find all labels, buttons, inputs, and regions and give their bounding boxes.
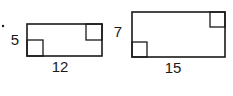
- rectangle-outline: [132, 12, 225, 57]
- right-angle-marker-top-right: [210, 12, 225, 27]
- right-angle-marker-bottom-left: [132, 42, 147, 57]
- height-label: 5: [11, 31, 19, 48]
- bullet-dot: [2, 25, 4, 27]
- width-label: 12: [52, 58, 69, 75]
- width-label: 15: [165, 59, 182, 76]
- right-angle-marker-bottom-left: [27, 40, 43, 56]
- rectangles-figure: 5 12 7 15: [0, 0, 233, 96]
- height-label: 7: [114, 23, 122, 40]
- rectangle-large: 7 15: [114, 12, 225, 76]
- right-angle-marker-top-right: [86, 24, 102, 40]
- rectangle-small: 5 12: [11, 24, 102, 75]
